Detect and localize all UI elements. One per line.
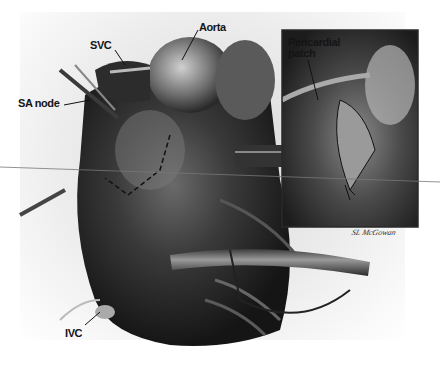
surgical-illustration: SVC Aorta SA node IVC Pericardial patch … bbox=[0, 0, 440, 374]
inset-panel bbox=[282, 30, 418, 227]
artist-signature: SL McGowan bbox=[351, 228, 397, 237]
label-svc: SVC bbox=[90, 40, 111, 51]
label-pericardial-patch: Pericardial patch bbox=[288, 37, 340, 59]
label-aorta: Aorta bbox=[199, 22, 226, 33]
label-sa-node: SA node bbox=[18, 98, 59, 109]
heart-drawing bbox=[0, 0, 440, 374]
label-ivc: IVC bbox=[65, 328, 82, 339]
